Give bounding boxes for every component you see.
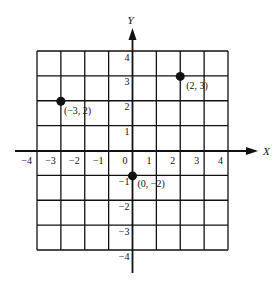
y-tick-label: −1 — [119, 176, 130, 187]
x-tick-label: −3 — [45, 155, 56, 166]
x-tick-label: −4 — [21, 155, 32, 166]
data-point — [128, 171, 137, 180]
x-tick-label: 4 — [218, 155, 223, 166]
x-axis-label: X — [262, 145, 271, 157]
x-tick-label: 0 — [123, 155, 128, 166]
axes — [15, 28, 258, 273]
y-tick-label: 2 — [125, 101, 130, 112]
data-point — [176, 72, 185, 81]
y-tick-label: 3 — [125, 76, 130, 87]
x-tick-label: −1 — [93, 155, 104, 166]
y-tick-label: 4 — [125, 52, 130, 63]
y-tick-label: −3 — [119, 226, 130, 237]
coordinate-plane: XY−4−3−2−1012344321−1−2−3−4 (−3, 2)(2, 3… — [0, 0, 273, 290]
x-tick-label: −2 — [69, 155, 80, 166]
y-tick-label: −2 — [119, 201, 130, 212]
y-axis-label: Y — [128, 14, 136, 26]
x-tick-label: 2 — [170, 155, 175, 166]
y-axis-arrow-icon — [129, 28, 137, 40]
x-axis-arrow-icon — [246, 147, 258, 155]
point-label: (2, 3) — [186, 80, 208, 92]
x-tick-label: 1 — [146, 155, 151, 166]
point-label: (−3, 2) — [64, 105, 91, 117]
y-tick-label: 1 — [125, 126, 130, 137]
y-tick-label: −4 — [119, 251, 130, 262]
x-tick-label: 3 — [194, 155, 199, 166]
point-label: (0, −2) — [138, 178, 165, 190]
